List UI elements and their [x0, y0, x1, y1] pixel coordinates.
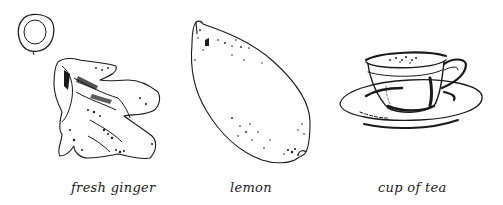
lemon-figure: lemon — [170, 0, 340, 205]
caption-lemon: lemon — [230, 180, 272, 195]
tea-figure: cup of tea — [330, 0, 503, 205]
teacup-icon — [330, 0, 503, 205]
caption-fresh-ginger: fresh ginger — [71, 180, 156, 195]
caption-cup-of-tea: cup of tea — [378, 180, 447, 195]
lemon-icon — [170, 0, 340, 205]
ginger-figure: fresh ginger — [0, 0, 170, 205]
ginger-root-icon — [0, 0, 170, 205]
